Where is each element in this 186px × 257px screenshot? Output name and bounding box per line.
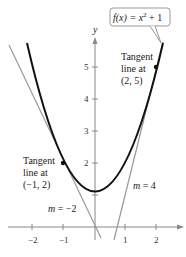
svg-text:(2, 5): (2, 5)	[121, 75, 143, 87]
function-body: (x) = x	[116, 12, 144, 24]
x-tick-label: 2	[154, 235, 159, 245]
svg-text:(−1, 2): (−1, 2)	[23, 179, 50, 191]
svg-text:Tangent: Tangent	[121, 51, 153, 62]
chart: −2 −1 1 2 2 3 4 5 y f(x) = x2 + 1 Tangen…	[0, 0, 186, 257]
tangent-point-right	[154, 65, 158, 69]
tangent-point-left	[61, 161, 65, 165]
x-tick-label: −2	[28, 235, 38, 245]
svg-text:line at: line at	[121, 63, 146, 74]
y-tick-label: 3	[84, 126, 89, 136]
y-axis-label: y	[92, 24, 98, 35]
tangent-label-left: Tangent line at (−1, 2)	[23, 155, 55, 191]
slope-label-right: m = 4	[133, 180, 156, 191]
function-tail: + 1	[147, 12, 163, 23]
y-tick-label: 5	[84, 62, 89, 72]
y-axis	[92, 37, 98, 240]
x-tick-label: 1	[123, 235, 128, 245]
y-tick-label: 2	[84, 158, 89, 168]
tangent-label-right: Tangent line at (2, 5)	[121, 51, 153, 87]
svg-text:line at: line at	[23, 167, 48, 178]
x-tick-label: −1	[59, 235, 69, 245]
y-tick-label: 4	[84, 94, 89, 104]
svg-text:Tangent: Tangent	[23, 155, 55, 166]
slope-label-left: m = −2	[48, 203, 77, 214]
svg-text:f(x) = x2 + 1: f(x) = x2 + 1	[113, 11, 162, 24]
function-callout: f(x) = x2 + 1	[110, 8, 170, 43]
